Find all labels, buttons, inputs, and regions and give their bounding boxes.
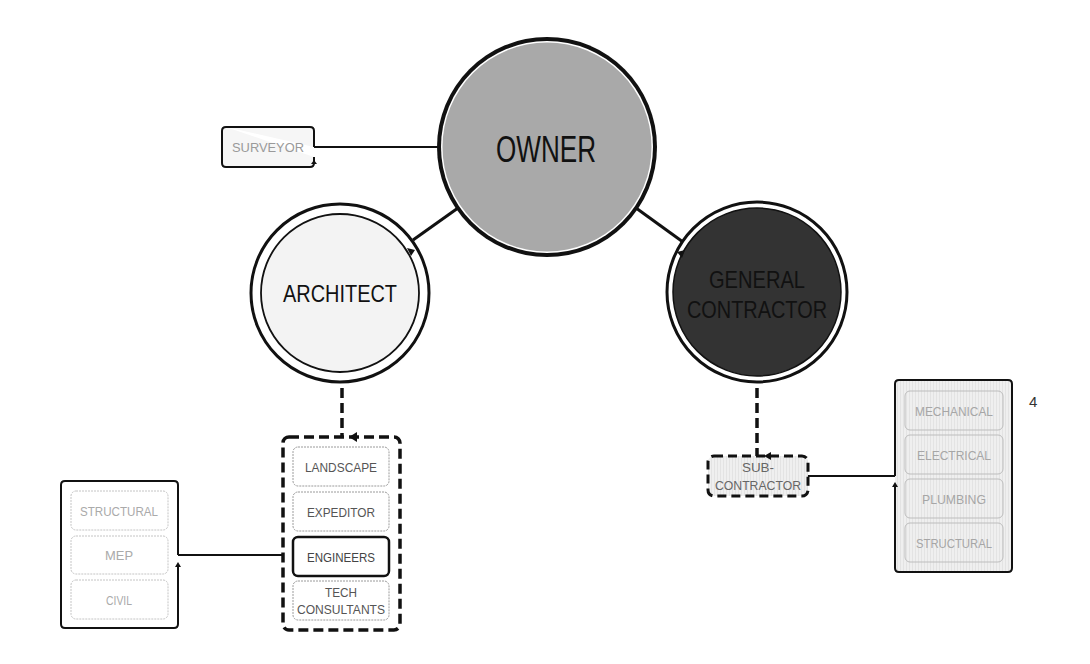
owner-architect-line [413,208,458,240]
gc-label-line1: GENERAL [709,266,805,293]
architect-label: ARCHITECT [283,280,397,307]
trade-item[interactable]: MECHANICAL [905,391,1003,430]
consultant-label-line2: CONSULTANTS [297,602,385,617]
discipline-label: MEP [105,548,133,563]
owner-label: OWNER [496,129,596,170]
consultant-label: LANDSCAPE [305,460,377,475]
discipline-label: STRUCTURAL [80,504,158,519]
trade-label: MECHANICAL [915,404,993,419]
consultant-label-line1: TECH [325,585,357,600]
owner-node[interactable]: OWNER [437,37,657,257]
trade-label: STRUCTURAL [916,536,992,551]
discipline-item[interactable]: CIVIL [71,580,168,619]
consultant-item[interactable]: EXPEDITOR [293,492,389,531]
general-contractor-node[interactable]: GENERAL CONTRACTOR [667,202,847,382]
surveyor-node[interactable]: SURVEYOR [222,127,317,167]
subcontractor-label-line1: SUB- [742,460,774,475]
gc-label-line2: CONTRACTOR [687,296,827,323]
consultant-label: EXPEDITOR [307,505,375,520]
architect-consultants-group: LANDSCAPE EXPEDITOR ENGINEERS TECH CONSU… [283,432,400,630]
consultant-item[interactable]: LANDSCAPE [293,447,389,486]
trade-item[interactable]: PLUMBING [905,479,1003,518]
discipline-item[interactable]: STRUCTURAL [71,491,168,530]
subcontractor-node[interactable]: SUB- CONTRACTOR [708,452,808,496]
trade-item[interactable]: ELECTRICAL [905,435,1003,474]
consultant-label: ENGINEERS [307,550,375,565]
subcontractor-trades-group: MECHANICAL ELECTRICAL PLUMBING STRUCTURA… [892,380,1012,572]
surveyor-label: SURVEYOR [232,140,304,155]
trade-item[interactable]: STRUCTURAL [905,523,1003,562]
owner-gc-line [636,208,683,242]
subcontractor-label-line2: CONTRACTOR [715,478,801,493]
trade-label: PLUMBING [922,492,986,507]
engineer-disciplines-group: STRUCTURAL MEP CIVIL [61,481,181,628]
project-delivery-diagram: SURVEYOR OWNER ARCHITECT GENERAL CONTRAC… [0,0,1090,664]
consultant-item-engineers[interactable]: ENGINEERS [293,537,389,576]
discipline-label: CIVIL [106,593,132,608]
page-number: 4 [1029,393,1037,410]
architect-node[interactable]: ARCHITECT [251,204,429,382]
consultant-item[interactable]: TECH CONSULTANTS [293,581,389,620]
discipline-item[interactable]: MEP [71,536,168,574]
trade-label: ELECTRICAL [917,448,991,463]
